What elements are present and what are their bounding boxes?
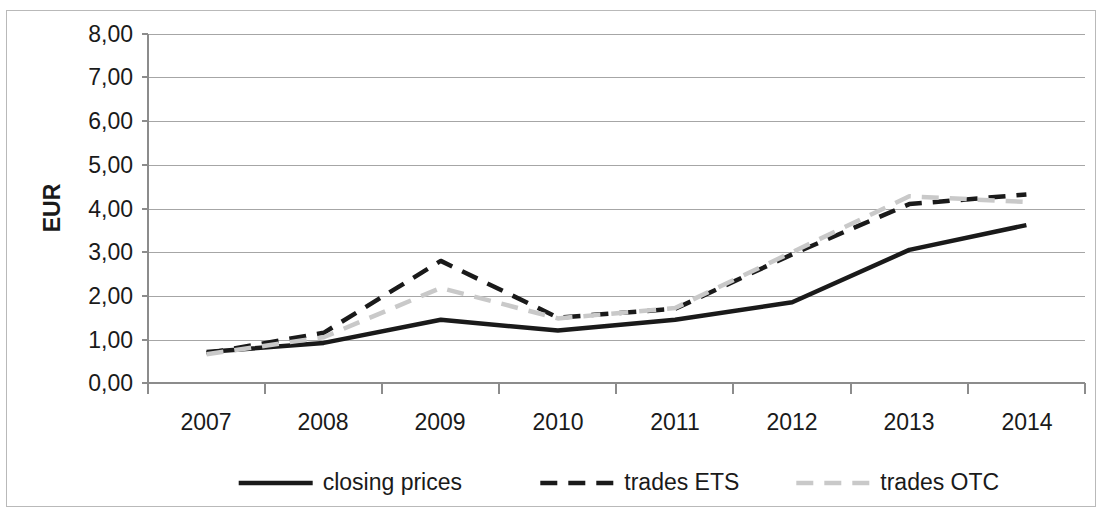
legend-item-closing-prices[interactable]: closing prices [239,469,462,495]
y-tick-label-6: 6,00 [88,108,133,134]
y-axis-title: EUR [39,183,65,232]
y-tick-label-5: 5,00 [88,152,133,178]
x-tick-label-2009: 2009 [414,409,465,435]
x-tick-label-2014: 2014 [1001,409,1052,435]
series-layer [207,195,1027,355]
y-tick-label-1: 1,00 [88,327,133,353]
y-tick-label-8: 8,00 [88,21,133,47]
x-tick-label-2012: 2012 [766,409,817,435]
x-tick-label-2007: 2007 [180,409,231,435]
chart-figure: 8,00 7,00 6,00 5,00 4,00 3,00 2,00 1,00 … [0,0,1102,524]
y-axis-tick-labels: 8,00 7,00 6,00 5,00 4,00 3,00 2,00 1,00 … [88,21,133,396]
x-axis-ticks [148,383,1085,394]
y-tick-label-3: 3,00 [88,239,133,265]
x-tick-label-2011: 2011 [650,409,699,435]
y-tick-label-0: 0,00 [88,370,133,396]
x-tick-label-2013: 2013 [883,409,934,435]
legend-label-trades-otc: trades OTC [880,469,999,495]
legend-item-trades-otc[interactable]: trades OTC [796,469,999,495]
y-axis-ticks [142,34,148,383]
legend-label-closing-prices: closing prices [323,469,462,495]
line-chart: 8,00 7,00 6,00 5,00 4,00 3,00 2,00 1,00 … [0,0,1102,524]
y-tick-label-7: 7,00 [88,64,133,90]
x-tick-label-2008: 2008 [297,409,348,435]
x-tick-label-2010: 2010 [532,409,583,435]
x-axis-tick-labels: 2007 2008 2009 2010 2011 2012 2013 2014 [180,409,1052,435]
legend-label-trades-ets: trades ETS [624,469,739,495]
series-line-trades-ets [207,195,1027,354]
y-tick-label-4: 4,00 [88,196,133,222]
chart-legend: closing pricestrades ETStrades OTC [239,469,999,495]
y-tick-label-2: 2,00 [88,283,133,309]
legend-item-trades-ets[interactable]: trades ETS [540,469,739,495]
gridlines [148,34,1085,340]
